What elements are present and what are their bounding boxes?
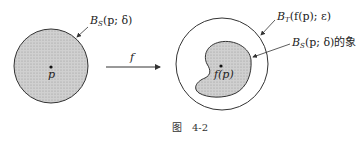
figure-caption: 图4-2 (172, 122, 208, 133)
point-fp-label: f(p) (213, 68, 234, 81)
ball-bt-leader (261, 20, 275, 35)
point-p-label: p (48, 68, 55, 81)
ball-bt-label: BT(f(p); ε) (276, 10, 331, 24)
ball-bs-leader (77, 27, 88, 37)
map-label: f (129, 51, 136, 64)
diagram-canvas: p BS(p; δ) f f(p) BT(f(p); ε) BS(p; δ)的象… (0, 0, 362, 141)
image-label: BS(p; δ)的象 (291, 35, 356, 50)
ball-bs-label: BS(p; δ) (89, 14, 132, 28)
image-leader (253, 44, 290, 57)
